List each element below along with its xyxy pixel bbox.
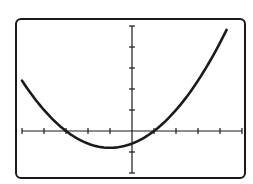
screen-frame [16,19,245,178]
graphing-calculator-screen [0,0,253,184]
